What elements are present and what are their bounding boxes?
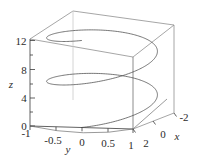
- x-tick-0: [153, 121, 156, 125]
- box-edge-bottom-back-right: [133, 113, 174, 129]
- x-axis-ticks: [133, 113, 177, 133]
- x-axis-title: x: [175, 131, 180, 142]
- x-tick-label-2: 2: [143, 138, 149, 149]
- helix-3d-plot: 12 8 4 0 z -1 -0.5 0 0.5 1 y 2 0 -2 x: [0, 0, 197, 158]
- z-tick-label-8: 8: [21, 65, 27, 76]
- y-tick-label-0: 0: [79, 137, 85, 148]
- y-axis-ticks: [30, 126, 133, 133]
- y-tick-label--0-5: -0.5: [44, 135, 61, 146]
- x-tick--2: [174, 113, 177, 117]
- z-tick-label-4: 4: [21, 93, 27, 104]
- y-tick-label-1: 1: [128, 140, 134, 151]
- axes-box: [30, 11, 174, 129]
- z-tick-label-12: 12: [16, 36, 27, 47]
- x-tick-label-0: 0: [160, 129, 166, 140]
- y-tick-label-0-5: 0.5: [101, 138, 115, 149]
- base-projection-curve: [30, 126, 133, 133]
- z-axis-title: z: [9, 79, 13, 90]
- z-axis-ticks: [30, 41, 35, 127]
- base-connector: [133, 99, 167, 129]
- x-tick-label--2: -2: [179, 112, 188, 123]
- y-axis-title: y: [66, 144, 71, 155]
- y-tick-label--1: -1: [21, 128, 30, 139]
- box-top-face: [30, 11, 174, 57]
